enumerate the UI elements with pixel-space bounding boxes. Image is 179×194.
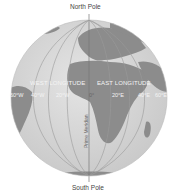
south-pole-label: South Pole	[72, 184, 104, 191]
tick-60e: 60°E	[155, 92, 167, 98]
tick-20e: 20°E	[112, 92, 124, 98]
north-pole-label: North Pole	[70, 3, 101, 10]
east-longitude-label: EAST LONGITUDE	[97, 80, 151, 86]
prime-meridian-label: Prime Meridian	[83, 114, 89, 148]
tick-40w: 40°W	[31, 92, 45, 98]
tick-0: 0°	[89, 92, 94, 98]
tick-20w: 20°W	[56, 92, 70, 98]
tick-40e: 40°E	[138, 92, 150, 98]
west-longitude-label: WEST LONGITUDE	[30, 80, 85, 86]
tick-60w: 60°W	[10, 92, 24, 98]
